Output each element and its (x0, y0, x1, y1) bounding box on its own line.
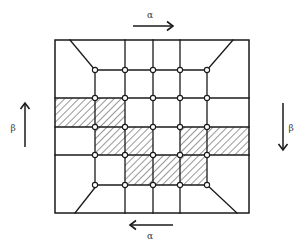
arrow-label: β (288, 123, 293, 133)
node-circle (150, 67, 155, 72)
hatched-cell (180, 127, 207, 155)
node-circle (177, 124, 182, 129)
corner-diagonal-line (70, 40, 95, 70)
corner-diagonal-line (207, 40, 233, 70)
hatched-cell (95, 98, 125, 127)
node-circle (177, 182, 182, 187)
arrow-label: α (147, 231, 153, 241)
node-circle (204, 152, 209, 157)
node-circle (177, 67, 182, 72)
node-circle (204, 124, 209, 129)
node-circle (204, 182, 209, 187)
arrow-right-beta-down: β (279, 103, 294, 150)
corner-diagonal-line (207, 185, 237, 213)
corner-diagonal-line (75, 185, 97, 213)
hatched-cell (55, 98, 95, 127)
node-circle (150, 95, 155, 100)
arrow-label: β (10, 123, 15, 133)
node-circle (92, 152, 97, 157)
arrow-left-beta-up: β (10, 103, 29, 147)
node-circle (122, 124, 127, 129)
arrow-top-alpha-right: α (133, 10, 173, 31)
hatched-cell (95, 127, 125, 155)
diagram-svg: ααββ (0, 0, 305, 247)
node-circle (92, 95, 97, 100)
hatched-cell (180, 155, 207, 185)
node-circle (150, 124, 155, 129)
node-circle (204, 95, 209, 100)
node-circle (177, 152, 182, 157)
node-circle (204, 67, 209, 72)
node-circle (177, 95, 182, 100)
node-circle (92, 182, 97, 187)
hatched-cell (125, 155, 153, 185)
node-circle (92, 124, 97, 129)
hatched-cells (55, 98, 249, 185)
network-grid-diagram: ααββ α α β β (0, 0, 305, 247)
node-circle (122, 152, 127, 157)
node-circle (122, 67, 127, 72)
node-circle (150, 152, 155, 157)
arrow-label: α (147, 10, 153, 20)
hatched-cell (207, 127, 249, 155)
node-circle (122, 95, 127, 100)
hatched-cell (125, 127, 153, 155)
hatched-cell (153, 155, 180, 185)
arrow-bottom-alpha-left: α (130, 221, 173, 242)
node-circle (150, 182, 155, 187)
node-circle (122, 182, 127, 187)
node-circle (92, 67, 97, 72)
